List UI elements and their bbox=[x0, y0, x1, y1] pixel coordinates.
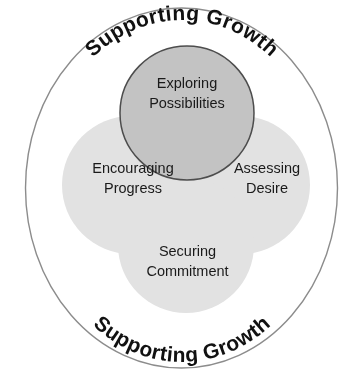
lobe-circle-securing bbox=[118, 177, 254, 313]
diagram-svg: Supporting Growth Supporting Growth bbox=[0, 0, 362, 378]
arc-label-bottom: Supporting Growth bbox=[90, 311, 274, 366]
arc-label-bottom-text: Supporting Growth bbox=[90, 311, 274, 366]
lobe-circle-exploring bbox=[120, 46, 254, 180]
diagram-canvas: Supporting Growth Supporting Growth Expl… bbox=[0, 0, 362, 378]
